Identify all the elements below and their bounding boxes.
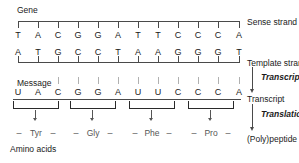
peptide-bond-dash: –	[105, 129, 115, 138]
transcript-base: A	[233, 88, 245, 97]
sense-base: C	[172, 31, 184, 40]
peptide-bond-dash: –	[223, 129, 233, 138]
message-tick	[239, 77, 240, 84]
codon-arrow-head	[90, 118, 94, 121]
sense-tick	[198, 21, 199, 28]
transcription-translation-diagram: Gene Sense strand T A C G G A T T C C C …	[0, 0, 299, 163]
amino-acid: Phe	[140, 129, 164, 138]
transcript-backbone	[13, 99, 241, 100]
amino-acids-label: Amino acids	[10, 145, 56, 154]
sense-base: T	[152, 31, 164, 40]
sense-tick	[178, 21, 179, 28]
sense-strand-label: Sense strand	[247, 18, 297, 27]
sense-strand-backbone	[18, 21, 240, 22]
sense-tick	[218, 21, 219, 28]
codon-bracket	[13, 101, 59, 109]
sense-base: T	[12, 31, 24, 40]
transcript-label: Transcript	[247, 95, 284, 104]
peptide-bond-dash: –	[164, 129, 174, 138]
peptide-bond-dash: –	[14, 129, 24, 138]
sense-base: G	[72, 31, 84, 40]
sense-tick	[138, 21, 139, 28]
transcript-base: C	[192, 88, 204, 97]
sense-tick	[18, 21, 19, 28]
transcript-base: A	[112, 88, 124, 97]
peptide-bond-dash: –	[130, 129, 140, 138]
sense-tick	[58, 21, 59, 28]
translation-label: Translation	[261, 110, 299, 119]
codon-bracket	[188, 101, 234, 109]
message-tick	[138, 77, 139, 84]
sense-base: A	[233, 31, 245, 40]
codon-arrow-head	[208, 118, 212, 121]
sense-base: T	[132, 31, 144, 40]
codon-arrow-head	[33, 118, 37, 121]
sense-base: C	[212, 31, 224, 40]
message-tick	[198, 77, 199, 84]
gene-label: Gene	[17, 6, 38, 15]
sense-tick	[239, 21, 240, 28]
sense-tick	[158, 21, 159, 28]
transcript-base: U	[152, 88, 164, 97]
transcript-base: U	[132, 88, 144, 97]
transcript-base: G	[72, 88, 84, 97]
transcription-arrow-head	[250, 89, 254, 93]
message-tick	[158, 77, 159, 84]
message-tick	[58, 77, 59, 84]
amino-acid: Gly	[81, 129, 105, 138]
sense-tick	[118, 21, 119, 28]
transcript-base: C	[212, 88, 224, 97]
peptide-bond-dash: –	[189, 129, 199, 138]
message-tick	[78, 77, 79, 84]
transcript-base: G	[92, 88, 104, 97]
peptide-bond-dash: –	[71, 129, 81, 138]
polypeptide-label: (Poly)peptide	[247, 135, 297, 144]
translation-arrow-shaft	[252, 104, 253, 128]
sense-base: A	[112, 31, 124, 40]
template-strand-label: Template strand	[247, 59, 299, 68]
translation-arrow-head	[250, 127, 254, 131]
message-tick	[178, 77, 179, 84]
amino-acid: Tyr	[24, 129, 48, 138]
codon-bracket	[129, 101, 175, 109]
peptide-bond-dash: –	[48, 129, 58, 138]
transcript-base: C	[52, 88, 64, 97]
template-strand-backbone	[18, 62, 240, 63]
transcript-base: U	[12, 88, 24, 97]
transcription-label: Transcription	[261, 73, 299, 82]
sense-base: C	[192, 31, 204, 40]
sense-tick	[98, 21, 99, 28]
sense-tick	[38, 21, 39, 28]
sense-base: A	[32, 31, 44, 40]
sense-base: G	[92, 31, 104, 40]
message-tick	[218, 77, 219, 84]
transcription-arrow-shaft	[252, 67, 253, 90]
message-tick	[118, 77, 119, 84]
transcript-base: C	[172, 88, 184, 97]
message-tick	[98, 77, 99, 84]
amino-acid: Pro	[199, 129, 223, 138]
codon-bracket	[70, 101, 116, 109]
sense-base: C	[52, 31, 64, 40]
transcript-base: A	[32, 88, 44, 97]
sense-tick	[78, 21, 79, 28]
codon-arrow-head	[149, 118, 153, 121]
